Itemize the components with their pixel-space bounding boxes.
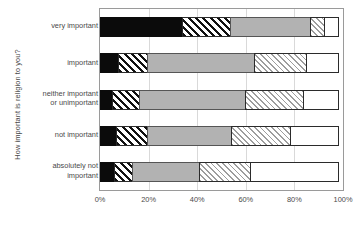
bar-segment — [132, 162, 200, 182]
bar-segment — [114, 162, 133, 182]
y-axis-tick-label-line: important — [67, 58, 98, 67]
bar-segment — [290, 126, 339, 146]
x-axis-tick-label: 40% — [190, 195, 205, 204]
x-axis-tick-label: 60% — [238, 195, 253, 204]
bar-row — [100, 162, 343, 182]
stacked-bar-chart: How important is religion to you? very i… — [0, 0, 364, 229]
y-axis-tick-label-line: very important — [51, 21, 98, 30]
y-axis-tick-label: absolutely notimportant — [6, 153, 98, 189]
bar-segment — [254, 53, 307, 73]
bar-segment — [303, 90, 339, 110]
y-axis-tick-label-line: important — [52, 171, 98, 180]
y-axis-tick-label-line: absolutely not — [52, 161, 98, 170]
bar-segment — [116, 126, 148, 146]
y-axis-tick-label: important — [6, 44, 98, 80]
bar-row — [100, 53, 343, 73]
x-axis-tick-label: 100% — [334, 195, 353, 204]
bar-segment — [100, 17, 183, 37]
x-axis-tick-label: 0% — [95, 195, 106, 204]
x-axis-tick-label: 80% — [287, 195, 302, 204]
x-axis-tick-labels: 0%20%40%60%80%100% — [0, 195, 364, 215]
bar-segment — [118, 53, 147, 73]
bar-segment — [112, 90, 140, 110]
bar-row — [100, 126, 343, 146]
bar-segment — [100, 126, 117, 146]
bar-segment — [139, 90, 246, 110]
bar-segment — [182, 17, 232, 37]
bar-row — [100, 90, 343, 110]
bar-segment — [306, 53, 339, 73]
bar-segment — [100, 53, 119, 73]
y-axis-tick-label: very important — [6, 8, 98, 44]
x-axis-tick-label: 20% — [141, 195, 156, 204]
bar-segment — [199, 162, 251, 182]
y-axis-tick-label-line: neither important — [43, 89, 98, 98]
bar-segment — [324, 17, 339, 37]
y-axis-tick-label-line: or unimportant — [43, 98, 98, 107]
bar-row — [100, 17, 343, 37]
y-axis-tick-label-line: not important — [55, 130, 98, 139]
y-axis-tick-label: not important — [6, 117, 98, 153]
bar-segment — [100, 162, 115, 182]
bar-segment — [245, 90, 303, 110]
y-axis-tick-label: neither importantor unimportant — [6, 80, 98, 116]
bar-segment — [230, 17, 310, 37]
bar-segment — [100, 90, 113, 110]
plot-area — [99, 8, 344, 191]
bar-segment — [147, 126, 232, 146]
bar-segment — [310, 17, 326, 37]
bar-segment — [250, 162, 339, 182]
bar-segment — [147, 53, 255, 73]
y-axis-tick-labels: very importantimportantneither important… — [6, 8, 98, 191]
bar-segment — [231, 126, 292, 146]
